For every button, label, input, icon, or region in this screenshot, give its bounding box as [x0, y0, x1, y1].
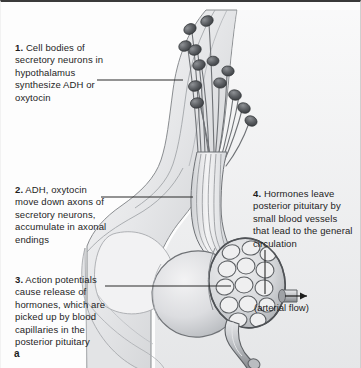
arterial-flow-label: (arterial flow): [254, 302, 309, 314]
callout-4-text: Hormones leave posterior pituitary by sm…: [253, 188, 353, 249]
callout-3: 3. Action potentials cause release of ho…: [15, 274, 115, 348]
callout-2: 2. ADH, oxytocin move down axons of secr…: [15, 184, 111, 246]
callout-2-number: 2.: [15, 184, 23, 195]
callout-1-text: Cell bodies of secretory neurons in hypo…: [15, 42, 103, 103]
callout-2-text: ADH, oxytocin move down axons of secreto…: [15, 184, 106, 245]
callout-4-number: 4.: [253, 188, 261, 199]
figure-panel: 1. Cell bodies of secretory neurons in h…: [0, 0, 361, 368]
panel-label-a: a: [14, 348, 20, 359]
callout-3-number: 3.: [15, 274, 23, 285]
callout-1: 1. Cell bodies of secretory neurons in h…: [15, 42, 107, 104]
callout-1-number: 1.: [15, 42, 23, 53]
callout-3-text: Action potentials cause release of hormo…: [15, 274, 105, 347]
callout-4: 4. Hormones leave posterior pituitary by…: [253, 188, 353, 250]
